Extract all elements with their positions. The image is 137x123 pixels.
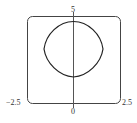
plot-area xyxy=(0,0,137,123)
y-max-label: 5 xyxy=(71,6,75,14)
x-max-label: 2.5 xyxy=(122,99,132,107)
x-zero-label: 0 xyxy=(71,108,75,116)
x-min-label: −2.5 xyxy=(6,99,21,107)
